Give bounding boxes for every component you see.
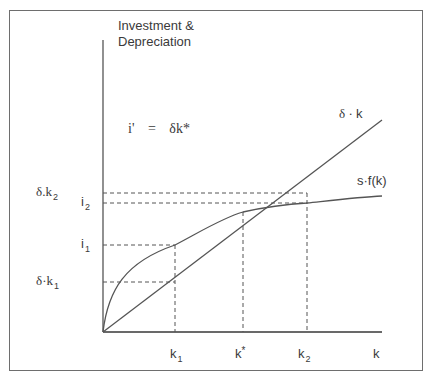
y-axis-title-line2: Depreciation <box>118 34 191 49</box>
y-tick-i2: i2 <box>81 194 90 211</box>
guide-lines <box>103 193 382 332</box>
depreciation-line-label: δ · k <box>339 106 362 121</box>
equation-rhs: δk* <box>169 121 190 136</box>
y-tick-delta-k2: δ.k2 <box>36 184 58 201</box>
steady-state-equation: i' = δk* <box>128 121 190 136</box>
y-tick-i1: i1 <box>81 236 90 253</box>
solow-diagram <box>0 0 434 383</box>
investment-curve-label: s·f(k) <box>357 173 387 188</box>
y-axis-title-line1: Investment & <box>118 18 194 33</box>
x-axis-label-k: k <box>373 346 380 361</box>
x-tick-k1: k1 <box>170 346 183 363</box>
equation-lhs: i' <box>128 121 134 136</box>
y-tick-delta-k1: δ·k1 <box>36 273 59 290</box>
x-tick-kstar: k* <box>235 346 245 362</box>
equation-eq: = <box>148 121 156 136</box>
x-tick-k2: k2 <box>298 346 311 363</box>
depreciation-line <box>103 120 382 332</box>
